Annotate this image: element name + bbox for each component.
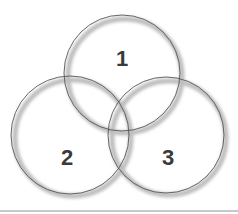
bottom-divider	[0, 210, 238, 212]
venn-diagram: 1 2 3	[0, 0, 238, 214]
set-label-2: 2	[61, 145, 73, 170]
set-label-3: 3	[162, 145, 174, 170]
set-label-1: 1	[116, 46, 128, 71]
